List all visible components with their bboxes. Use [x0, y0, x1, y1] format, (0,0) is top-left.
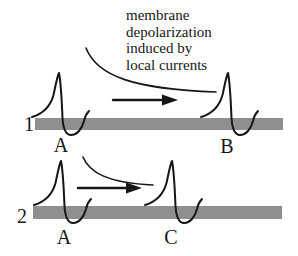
annotation-line-2: depolarization [126, 24, 212, 41]
annotation-caption: membrane depolarization induced by local… [126, 7, 212, 73]
panel-2-site-label-c: C [164, 227, 177, 247]
panel-2-site-label-a: A [57, 227, 71, 247]
local-currents-curve-2-icon [83, 157, 153, 185]
panel-2-index-label: 2 [17, 206, 27, 226]
axon-bar-2 [33, 206, 282, 219]
panel-1-index-label: 1 [24, 114, 34, 134]
axon-bar-1 [35, 118, 283, 130]
annotation-line-3: induced by [126, 40, 212, 57]
propagation-arrow-1-icon [113, 95, 178, 106]
panel-1-site-label-a: A [54, 135, 68, 155]
propagation-arrow-2-icon [78, 183, 142, 194]
panel-1-site-label-b: B [220, 136, 233, 156]
annotation-line-1: membrane [126, 7, 212, 24]
annotation-line-4: local currents [126, 57, 212, 74]
membrane-depolarization-figure: membrane depolarization induced by local… [0, 0, 298, 256]
